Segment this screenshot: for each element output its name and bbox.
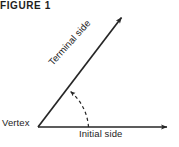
angle-figure: Vertex Initial side Terminal side FIGURE…: [0, 0, 179, 147]
vertex-label: Vertex: [2, 117, 30, 128]
initial-side-label: Initial side: [79, 128, 122, 139]
angle-arc: [71, 92, 89, 128]
